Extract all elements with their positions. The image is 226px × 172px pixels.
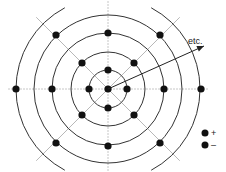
etc-label: etc. [188, 36, 203, 46]
lattice-dot [78, 59, 85, 66]
legend-plus-dot [202, 130, 209, 137]
lattice-dot [156, 139, 163, 146]
lattice-dot [12, 85, 19, 92]
concentric-circle-diagram: etc. + – [0, 0, 226, 172]
lattice-dot [85, 85, 92, 92]
lattice-dot [104, 142, 111, 149]
lattice-dot [52, 31, 59, 38]
lattice-dot [123, 85, 130, 92]
lattice-dot [104, 29, 111, 36]
legend-minus-dot [202, 142, 209, 149]
direction-arrow [108, 46, 204, 89]
legend-minus-label: – [211, 140, 216, 150]
lattice-dot [130, 111, 137, 118]
lattice-dot [48, 85, 55, 92]
lattice-dot [156, 31, 163, 38]
lattice-dot [160, 85, 167, 92]
lattice-dot [78, 111, 85, 118]
lattice-dot [197, 85, 204, 92]
legend-plus-label: + [211, 128, 216, 138]
legend: + – [202, 128, 217, 150]
lattice-dot [52, 139, 59, 146]
lattice-dot [104, 104, 111, 111]
lattice-dot [130, 59, 137, 66]
lattice-dots [12, 29, 204, 149]
lattice-dot [104, 66, 111, 73]
